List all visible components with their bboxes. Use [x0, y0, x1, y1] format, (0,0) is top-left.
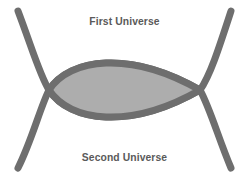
second-universe-label: Second Universe [7, 151, 241, 163]
two-universes-figure: First Universe Second Universe [0, 0, 249, 179]
first-universe-label: First Universe [7, 15, 241, 27]
